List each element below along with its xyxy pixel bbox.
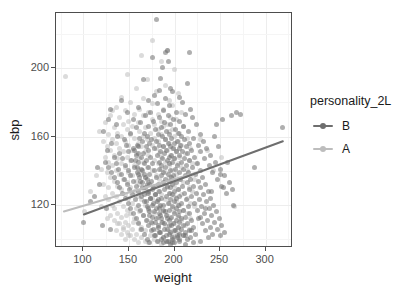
x-axis-tick (219, 247, 220, 251)
data-point (182, 191, 187, 196)
data-point (109, 141, 114, 146)
data-point (167, 161, 172, 166)
data-point (130, 227, 135, 232)
data-point (198, 149, 203, 154)
data-point (138, 120, 143, 125)
data-point (119, 172, 124, 177)
data-point (119, 232, 124, 237)
x-axis-tick-label: 200 (164, 253, 182, 265)
data-point (146, 98, 151, 103)
data-point (150, 161, 155, 166)
data-point (177, 237, 182, 242)
data-point (204, 146, 209, 151)
legend-key-icon (313, 140, 333, 158)
data-point (148, 155, 153, 160)
data-point (121, 122, 126, 127)
data-point (187, 50, 192, 55)
plot-panel (55, 12, 292, 247)
data-point (215, 177, 220, 182)
data-point (224, 191, 229, 196)
data-point (112, 155, 117, 160)
data-point (194, 191, 199, 196)
data-point (150, 215, 155, 220)
data-point (211, 203, 216, 208)
data-point (172, 67, 177, 72)
data-point (177, 170, 182, 175)
y-axis-tick (51, 204, 55, 205)
data-point (191, 136, 196, 141)
gridline-horizontal-minor (56, 34, 291, 35)
data-point (103, 160, 108, 165)
data-point (187, 187, 192, 192)
data-point (133, 197, 138, 202)
data-point (191, 184, 196, 189)
data-point (142, 232, 147, 237)
legend-item-A[interactable]: A (310, 140, 391, 158)
data-point (200, 221, 205, 226)
data-point (204, 199, 209, 204)
data-point (154, 17, 159, 22)
data-point (201, 192, 206, 197)
data-point (114, 161, 119, 166)
data-point (142, 172, 147, 177)
data-point (150, 38, 155, 43)
data-point (94, 173, 99, 178)
data-point (157, 88, 162, 93)
legend-title: personality_2L (310, 94, 391, 108)
data-point (128, 100, 133, 105)
data-point (88, 189, 93, 194)
data-point (105, 148, 110, 153)
data-point (63, 74, 68, 79)
data-point (152, 93, 157, 98)
data-point (189, 218, 194, 223)
x-axis-tick-label: 300 (255, 253, 273, 265)
data-point (108, 107, 113, 112)
data-point (143, 113, 148, 118)
data-point (201, 139, 206, 144)
x-axis-tick-label: 250 (210, 253, 228, 265)
data-point (238, 112, 243, 117)
gridline-vertical (266, 13, 267, 246)
data-point (202, 156, 207, 161)
data-point (132, 112, 137, 117)
y-axis-tick-label: 200 (31, 61, 49, 73)
data-point (183, 112, 188, 117)
gridline-vertical-minor (288, 13, 289, 246)
data-point (214, 122, 219, 127)
data-point (189, 194, 194, 199)
x-axis-tick (128, 247, 129, 251)
data-point (169, 136, 174, 141)
data-point (194, 122, 199, 127)
gridline-vertical-minor (106, 13, 107, 246)
data-point (183, 242, 188, 247)
data-point (191, 240, 196, 245)
data-point (190, 115, 195, 120)
data-point (163, 83, 168, 88)
data-point (134, 86, 139, 91)
data-point (214, 209, 219, 214)
data-point (203, 228, 208, 233)
legend-item-B[interactable]: B (310, 117, 391, 135)
data-point (132, 136, 137, 141)
data-point (198, 185, 203, 190)
gridline-vertical-minor (243, 13, 244, 246)
data-point (192, 155, 197, 160)
data-point (101, 129, 106, 134)
data-point (188, 107, 193, 112)
data-point (203, 206, 208, 211)
data-point (161, 108, 166, 113)
data-point (231, 203, 236, 208)
data-point (212, 134, 217, 139)
data-point (215, 227, 220, 232)
legend-item-label: B (342, 119, 350, 133)
legend-item-label: A (342, 142, 350, 156)
data-point (139, 227, 144, 232)
data-point (146, 165, 151, 170)
legend-key-icon (313, 117, 333, 135)
data-point (227, 180, 232, 185)
data-point (124, 143, 129, 148)
data-point (131, 179, 136, 184)
data-point (126, 149, 131, 154)
y-axis-tick (51, 67, 55, 68)
data-point (206, 235, 211, 240)
